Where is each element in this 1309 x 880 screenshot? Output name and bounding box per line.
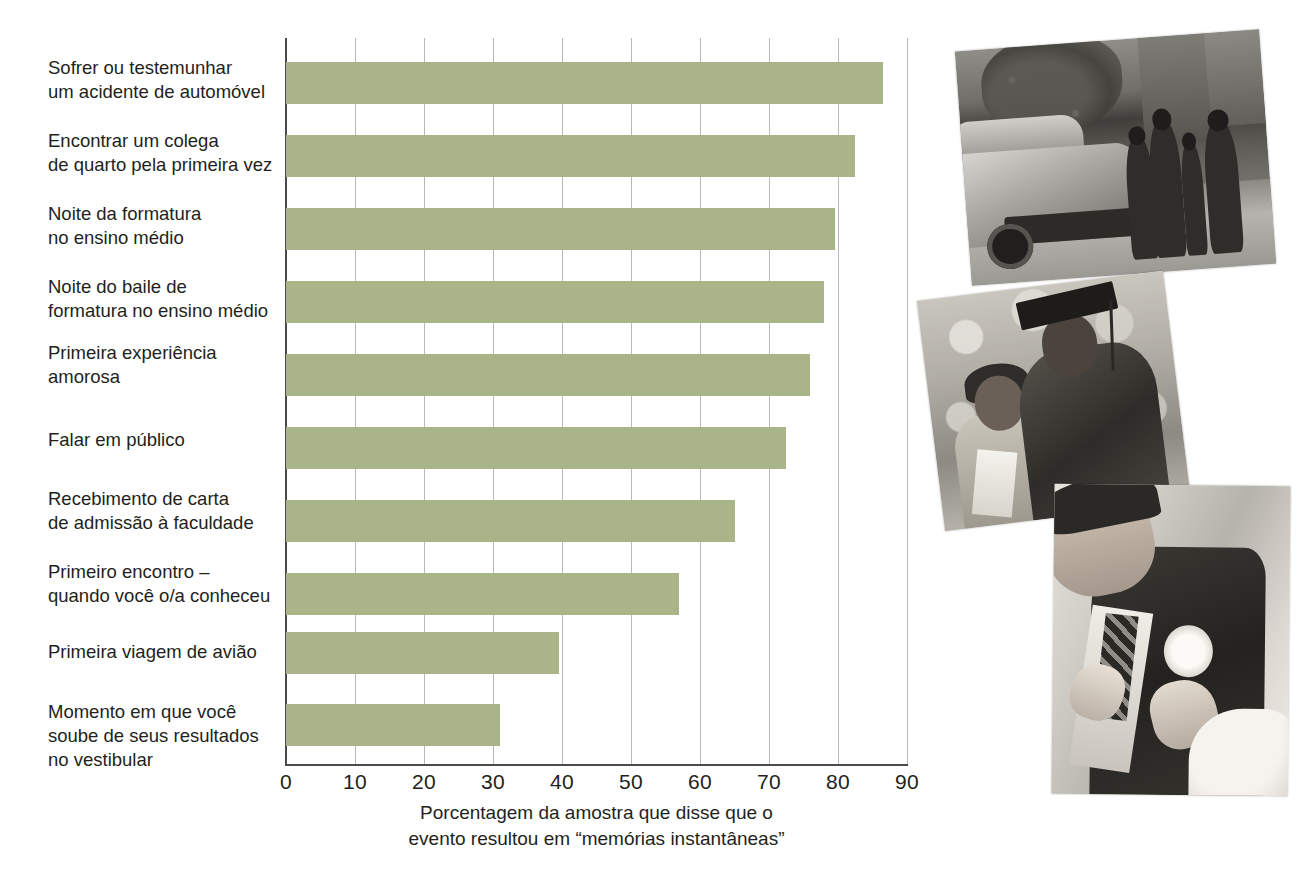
bar xyxy=(286,427,786,469)
gridline xyxy=(907,38,908,764)
category-label: Primeira viagem de avião xyxy=(48,640,276,664)
x-tick-label: 10 xyxy=(343,770,367,794)
bar xyxy=(286,135,855,177)
x-tick-label: 20 xyxy=(412,770,436,794)
bar xyxy=(286,62,883,104)
category-label: Encontrar um colega de quarto pela prime… xyxy=(48,129,276,177)
category-label: Primeira experiência amorosa xyxy=(48,341,276,389)
bar xyxy=(286,573,679,615)
figure-panel: Sofrer ou testemunhar um acidente de aut… xyxy=(0,0,1309,880)
car-accident-photo xyxy=(955,29,1276,286)
x-tick-label: 0 xyxy=(280,770,292,794)
x-axis-title: Porcentagem da amostra que disse que o e… xyxy=(286,800,907,852)
prom-photo xyxy=(1051,484,1290,796)
bar xyxy=(286,208,835,250)
x-axis-line xyxy=(285,764,908,766)
category-label: Sofrer ou testemunhar um acidente de aut… xyxy=(48,56,276,104)
x-tick-label: 80 xyxy=(826,770,850,794)
x-tick-label: 40 xyxy=(550,770,574,794)
bar xyxy=(286,632,559,674)
bar xyxy=(286,354,810,396)
bar xyxy=(286,704,500,746)
category-label: Primeiro encontro – quando você o/a conh… xyxy=(48,560,276,608)
bar xyxy=(286,500,735,542)
x-tick-label: 50 xyxy=(619,770,643,794)
cut-off-caption xyxy=(60,866,1250,878)
bar-chart: Sofrer ou testemunhar um acidente de aut… xyxy=(0,0,950,880)
category-label: Recebimento de carta de admissão à facul… xyxy=(48,487,276,535)
category-label: Noite da formatura no ensino médio xyxy=(48,202,276,250)
category-label: Momento em que você soube de seus result… xyxy=(48,700,276,772)
x-tick-label: 30 xyxy=(481,770,505,794)
plot-area xyxy=(286,38,907,764)
x-tick-label: 70 xyxy=(757,770,781,794)
x-tick-label: 60 xyxy=(688,770,712,794)
category-label: Noite do baile de formatura no ensino mé… xyxy=(48,275,276,323)
bar xyxy=(286,281,824,323)
category-label: Falar em público xyxy=(48,428,276,452)
x-tick-label: 90 xyxy=(895,770,919,794)
